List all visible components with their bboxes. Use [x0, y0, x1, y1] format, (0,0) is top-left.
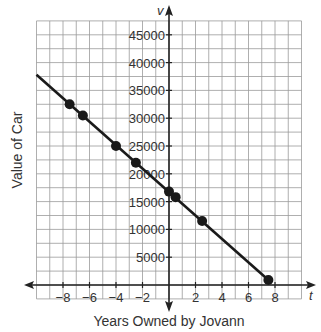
x-tick-label: 4	[218, 290, 225, 305]
x-tick-label: 2	[192, 290, 199, 305]
data-point	[131, 158, 141, 168]
data-point	[171, 192, 181, 202]
y-tick-label: 30000	[129, 111, 165, 126]
y-tick-label: 20000	[129, 167, 165, 182]
data-point	[263, 275, 273, 285]
axes	[24, 5, 316, 312]
x-axis-variable: t	[309, 288, 314, 303]
tick-labels: −8−6−4−224685000100001500020000250003000…	[56, 28, 279, 305]
y-tick-label: 35000	[129, 83, 165, 98]
y-axis-title: Value of Car	[9, 111, 25, 188]
data-point	[111, 141, 121, 151]
data-point	[65, 99, 75, 109]
data-point	[78, 110, 88, 120]
y-tick-label: 45000	[129, 28, 165, 43]
y-tick-label: 15000	[129, 195, 165, 210]
line-chart: −8−6−4−224685000100001500020000250003000…	[0, 0, 321, 332]
x-tick-label: 8	[271, 290, 278, 305]
y-tick-label: 25000	[129, 139, 165, 154]
y-tick-label: 10000	[129, 222, 165, 237]
x-tick-label: −8	[56, 290, 71, 305]
y-tick-label: 40000	[129, 56, 165, 71]
x-tick-label: 6	[245, 290, 252, 305]
data-point	[197, 216, 207, 226]
x-axis-title: Years Owned by Jovann	[93, 313, 244, 329]
x-tick-label: −6	[82, 290, 97, 305]
x-tick-label: −2	[135, 290, 150, 305]
y-axis-variable: v	[157, 3, 165, 18]
x-tick-label: −4	[109, 290, 124, 305]
y-tick-label: 5000	[136, 250, 165, 265]
